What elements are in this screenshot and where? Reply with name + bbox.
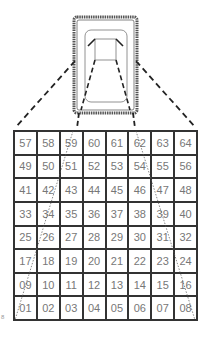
grid-cell: 20: [83, 249, 106, 273]
grid-cell: 47: [151, 178, 174, 202]
grid-cell: 18: [37, 249, 60, 273]
grid-cell: 39: [151, 202, 174, 226]
grid-cell: 16: [174, 273, 197, 297]
grid-cell: 11: [60, 273, 83, 297]
grid-cell: 02: [37, 296, 60, 320]
device-inner-frame: [77, 20, 134, 110]
inner-projection-top-left: [88, 39, 95, 46]
grid-cell: 28: [83, 226, 106, 250]
grid-cell: 03: [60, 296, 83, 320]
grid-cell: 54: [128, 155, 151, 179]
projection-diagram: 5758596061626364495051525354555641424344…: [0, 0, 209, 340]
grid-cell: 23: [151, 249, 174, 273]
grid-cell: 46: [128, 178, 151, 202]
grid-cell: 62: [128, 131, 151, 155]
grid-cell: 35: [60, 202, 83, 226]
grid-cell: 55: [151, 155, 174, 179]
grid-cell: 37: [106, 202, 129, 226]
device-outer-frame: [74, 17, 137, 113]
grid-cell: 27: [60, 226, 83, 250]
grid-cell: 34: [37, 202, 60, 226]
sensor-square: [95, 39, 116, 60]
grid-cell: 60: [83, 131, 106, 155]
grid-cell: 43: [60, 178, 83, 202]
projection-line-mid-left: [77, 113, 79, 128]
device-screen: [85, 30, 127, 102]
grid-cell: 49: [14, 155, 37, 179]
grid-cell: 48: [174, 178, 197, 202]
grid-cell: 25: [14, 226, 37, 250]
grid-cell: 13: [106, 273, 129, 297]
projection-line-mid-right: [133, 113, 135, 128]
grid-cell: 08: [174, 296, 197, 320]
projection-line-outer-right: [136, 61, 196, 128]
grid-cell: 59: [60, 131, 83, 155]
grid-cell: 12: [83, 273, 106, 297]
grid-cell: 61: [106, 131, 129, 155]
grid-cell: 17: [14, 249, 37, 273]
grid-cell: 56: [174, 155, 197, 179]
grid-cell: 19: [60, 249, 83, 273]
grid-cell: 52: [83, 155, 106, 179]
side-mark: 8: [1, 314, 4, 320]
grid-cell: 45: [106, 178, 129, 202]
inner-projection-line-right: [116, 60, 130, 110]
grid-cell: 14: [128, 273, 151, 297]
grid-cell: 44: [83, 178, 106, 202]
grid-cell: 30: [128, 226, 151, 250]
grid-cell: 29: [106, 226, 129, 250]
grid-cell: 32: [174, 226, 197, 250]
inner-projection-top-right: [116, 39, 123, 46]
grid-cell: 57: [14, 131, 37, 155]
grid-cell: 38: [128, 202, 151, 226]
grid-cell: 42: [37, 178, 60, 202]
grid-cell: 51: [60, 155, 83, 179]
numbered-grid: 5758596061626364495051525354555641424344…: [13, 130, 198, 321]
grid-cell: 05: [106, 296, 129, 320]
grid-cell: 04: [83, 296, 106, 320]
grid-cell: 31: [151, 226, 174, 250]
grid-cell: 58: [37, 131, 60, 155]
grid-cell: 15: [151, 273, 174, 297]
grid-cell: 22: [128, 249, 151, 273]
grid-cell: 01: [14, 296, 37, 320]
grid-cell: 33: [14, 202, 37, 226]
grid-cell: 50: [37, 155, 60, 179]
grid-cell: 21: [106, 249, 129, 273]
grid-cell: 64: [174, 131, 197, 155]
inner-projection-line-left: [81, 60, 95, 110]
grid-cell: 07: [151, 296, 174, 320]
grid-cell: 24: [174, 249, 197, 273]
grid-cell: 06: [128, 296, 151, 320]
grid-cell: 26: [37, 226, 60, 250]
projection-line-outer-left: [15, 61, 75, 128]
grid-cell: 10: [37, 273, 60, 297]
grid-cell: 63: [151, 131, 174, 155]
grid-cell: 36: [83, 202, 106, 226]
grid-cell: 41: [14, 178, 37, 202]
grid-cell: 40: [174, 202, 197, 226]
grid-cell: 09: [14, 273, 37, 297]
grid-cell: 53: [106, 155, 129, 179]
